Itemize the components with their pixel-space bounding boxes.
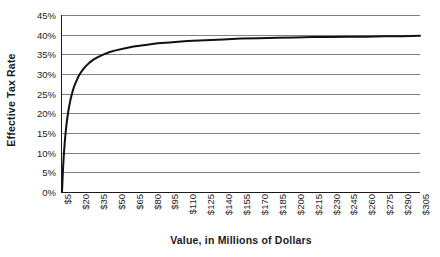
- y-axis-title-label: Effective Tax Rate: [5, 53, 17, 146]
- y-tick-label: 5%: [42, 167, 56, 178]
- tax-rate-curve-path: [62, 36, 420, 192]
- y-axis-title: Effective Tax Rate: [0, 0, 22, 200]
- y-tick-label: 30%: [37, 69, 56, 80]
- y-tick-label: 25%: [37, 88, 56, 99]
- x-axis-title: Value, in Millions of Dollars: [62, 234, 420, 246]
- y-axis-tick-labels: 0%5%10%15%20%25%30%35%40%45%: [22, 15, 59, 192]
- y-tick-label: 40%: [37, 29, 56, 40]
- y-tick-label: 45%: [37, 10, 56, 21]
- x-tick-label-text: $305: [420, 194, 431, 215]
- x-tick-label: $305: [401, 194, 439, 232]
- plot-area: [62, 15, 420, 192]
- x-axis-tick-labels: $5$20$35$50$65$80$95$110$125$140$155$170…: [62, 194, 420, 232]
- tax-rate-curve: [62, 15, 420, 192]
- y-tick-label: 10%: [37, 147, 56, 158]
- y-tick-label: 15%: [37, 128, 56, 139]
- y-tick-label: 20%: [37, 108, 56, 119]
- axis-baseline: [62, 192, 420, 193]
- y-tick-label: 35%: [37, 49, 56, 60]
- effective-tax-rate-chart: Effective Tax Rate 0%5%10%15%20%25%30%35…: [0, 0, 440, 257]
